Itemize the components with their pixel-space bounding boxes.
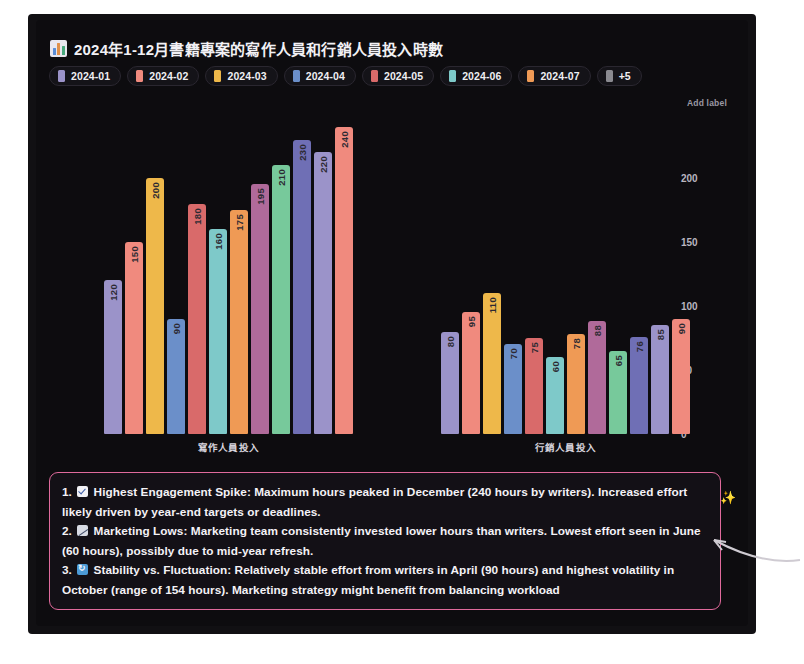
bar-value-label: 120: [108, 284, 119, 301]
bar[interactable]: 120: [104, 280, 122, 434]
bar-value-label: 76: [634, 341, 645, 352]
insight-text: Stability vs. Fluctuation: Relatively st…: [62, 563, 674, 597]
group-label: 行銷人員投入: [441, 440, 690, 454]
bar-value-label: 90: [676, 323, 687, 334]
bar-value-label: 70: [508, 348, 519, 359]
legend-swatch-icon: [449, 70, 456, 82]
bar-group-writers: 12015020090180160175195210230220240寫作人員投…: [104, 114, 353, 434]
bar-value-label: 195: [255, 188, 266, 205]
legend-item-label: +5: [619, 70, 631, 82]
bar-value-label: 160: [213, 233, 224, 250]
insights-panel: 1. Highest Engagement Spike: Maximum hou…: [49, 472, 721, 610]
page-title: 2024年1-12月書籍專案的寫作人員和行銷人員投入時數: [74, 38, 443, 59]
legend-item-label: 2024-04: [306, 70, 345, 82]
legend-item-2024-02[interactable]: 2024-02: [127, 66, 199, 86]
legend-item-label: 2024-02: [149, 70, 188, 82]
bar-value-label: 150: [129, 246, 140, 263]
legend-item-2024-06[interactable]: 2024-06: [440, 66, 512, 86]
sparkle-icon[interactable]: ✨: [720, 490, 736, 505]
bar-value-label: 95: [466, 316, 477, 327]
bar[interactable]: 75: [525, 338, 543, 434]
legend-item-2024-04[interactable]: 2024-04: [284, 66, 356, 86]
legend-item-label: 2024-05: [384, 70, 423, 82]
legend-swatch-icon: [606, 70, 613, 82]
bar-value-label: 90: [171, 323, 182, 334]
bar[interactable]: 65: [609, 351, 627, 434]
bar[interactable]: 220: [314, 152, 332, 434]
bar[interactable]: 85: [651, 325, 669, 434]
bar[interactable]: 210: [272, 165, 290, 434]
legend-item-2024-07[interactable]: 2024-07: [518, 66, 590, 86]
bar-value-label: 78: [571, 338, 582, 349]
bar[interactable]: 80: [441, 332, 459, 434]
insight-item: 3. Stability vs. Fluctuation: Relatively…: [62, 561, 708, 600]
bar-value-label: 175: [234, 214, 245, 231]
bar[interactable]: 180: [188, 204, 206, 434]
bar-value-label: 230: [297, 144, 308, 161]
legend-item-label: 2024-03: [227, 70, 266, 82]
legend-item-2024-01[interactable]: 2024-01: [49, 66, 121, 86]
insight-number: 1.: [62, 485, 75, 499]
insight-item: 1. Highest Engagement Spike: Maximum hou…: [62, 483, 708, 522]
plot-area: Add label 200150100500 12015020090180160…: [49, 98, 735, 468]
bar[interactable]: 150: [125, 242, 143, 434]
bar-group-marketing: 8095110707560788865768590行銷人員投入: [441, 114, 690, 434]
bar-value-label: 110: [487, 297, 498, 313]
bar-value-label: 65: [613, 355, 624, 366]
bar-value-label: 85: [655, 329, 666, 340]
insight-number: 2.: [62, 524, 75, 538]
legend-item-label: 2024-06: [462, 70, 501, 82]
chart-title-row: 2024年1-12月書籍專案的寫作人員和行銷人員投入時數: [50, 38, 443, 59]
bar[interactable]: 78: [567, 334, 585, 434]
annotation-arrow-icon: [700, 520, 804, 565]
insight-number: 3.: [62, 563, 75, 577]
bar-value-label: 220: [318, 156, 329, 173]
bar[interactable]: 70: [504, 344, 522, 434]
bar[interactable]: 110: [483, 293, 501, 434]
chart-legend: 2024-012024-022024-032024-042024-052024-…: [49, 66, 642, 86]
legend-swatch-icon: [58, 70, 65, 82]
check-box-icon: [77, 486, 88, 497]
screenshot-root: 2024年1-12月書籍專案的寫作人員和行銷人員投入時數 2024-012024…: [0, 0, 804, 664]
legend-item-2024-05[interactable]: 2024-05: [362, 66, 434, 86]
recycle-icon: [77, 564, 88, 575]
bar[interactable]: 195: [251, 184, 269, 434]
bar-value-label: 88: [592, 325, 603, 336]
group-label: 寫作人員投入: [104, 440, 353, 454]
y-axis-add-label[interactable]: Add label: [687, 98, 727, 108]
insight-item: 2. Marketing Lows: Marketing team consis…: [62, 522, 708, 561]
chart-decreasing-icon: [77, 525, 88, 536]
chart-card: 2024年1-12月書籍專案的寫作人員和行銷人員投入時數 2024-012024…: [36, 20, 748, 626]
legend-item-plus5[interactable]: +5: [597, 66, 642, 86]
legend-item-label: 2024-01: [71, 70, 110, 82]
bar[interactable]: 60: [546, 357, 564, 434]
bar-value-label: 200: [150, 182, 161, 199]
bar[interactable]: 240: [335, 127, 353, 434]
bar-value-label: 75: [529, 342, 540, 353]
legend-swatch-icon: [371, 70, 378, 82]
bar-value-label: 80: [445, 336, 456, 347]
bar[interactable]: 95: [462, 312, 480, 434]
insight-text: Marketing Lows: Marketing team consisten…: [62, 524, 701, 558]
legend-item-label: 2024-07: [540, 70, 579, 82]
bar[interactable]: 175: [230, 210, 248, 434]
bar[interactable]: 90: [167, 319, 185, 434]
bar-value-label: 180: [192, 208, 203, 225]
bar[interactable]: 76: [630, 337, 648, 434]
bar-chart-icon: [50, 40, 67, 57]
legend-swatch-icon: [136, 70, 143, 82]
bar[interactable]: 88: [588, 321, 606, 434]
bar[interactable]: 90: [672, 319, 690, 434]
legend-swatch-icon: [293, 70, 300, 82]
legend-swatch-icon: [214, 70, 221, 82]
bar[interactable]: 200: [146, 178, 164, 434]
bar[interactable]: 160: [209, 229, 227, 434]
legend-swatch-icon: [527, 70, 534, 82]
bar[interactable]: 230: [293, 140, 311, 434]
insight-text: Highest Engagement Spike: Maximum hours …: [62, 485, 687, 519]
bar-value-label: 210: [276, 169, 287, 186]
bars-container: 12015020090180160175195210230220240寫作人員投…: [49, 114, 677, 434]
bar-value-label: 60: [550, 361, 561, 372]
legend-item-2024-03[interactable]: 2024-03: [205, 66, 277, 86]
bar-value-label: 240: [339, 131, 350, 148]
